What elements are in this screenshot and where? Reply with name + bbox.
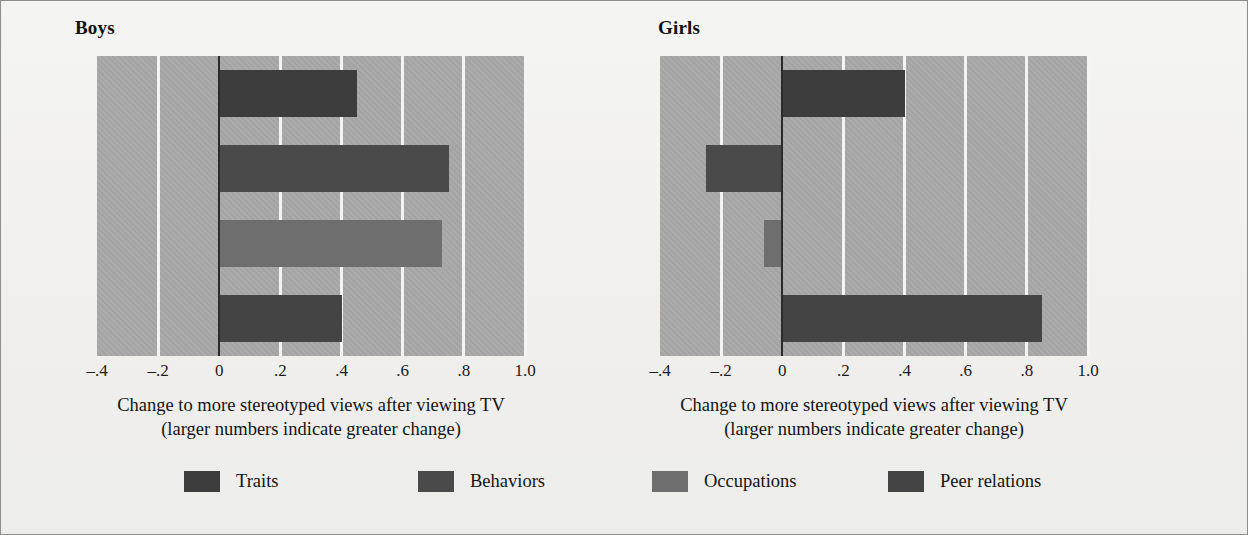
legend-label: Occupations — [704, 471, 796, 492]
x-axis-caption-girls-line1: Change to more stereotyped views after v… — [680, 395, 1068, 415]
legend-swatch-icon — [184, 471, 220, 492]
x-tick-label: –.2 — [711, 361, 732, 381]
x-axis-caption-boys-line1: Change to more stereotyped views after v… — [117, 395, 505, 415]
x-tick-label: 1.0 — [1077, 361, 1098, 381]
panel-boys: Boys –.4–.20.2.4.6.81.0 Change to more s… — [1, 1, 624, 456]
plot-area-boys — [97, 56, 525, 356]
bar-behaviors — [706, 145, 782, 192]
x-tick-label: .6 — [959, 361, 972, 381]
x-tick-label: .4 — [335, 361, 348, 381]
legend-label: Behaviors — [470, 471, 545, 492]
bar-traits — [782, 70, 904, 117]
x-tick-label: –.2 — [148, 361, 169, 381]
x-tick-label: .8 — [1020, 361, 1033, 381]
gridline — [157, 56, 160, 356]
x-axis-caption-girls-line2: (larger numbers indicate greater change) — [624, 417, 1124, 441]
gridline — [524, 56, 527, 356]
x-tick-label: .2 — [837, 361, 850, 381]
legend-item-behaviors: Behaviors — [394, 471, 628, 492]
x-tick-label: –.4 — [649, 361, 670, 381]
bar-occupations — [764, 220, 782, 267]
x-axis-ticks-boys: –.4–.20.2.4.6.81.0 — [97, 361, 525, 387]
legend-item-peer-relations: Peer relations — [862, 471, 1098, 492]
x-tick-label: .4 — [898, 361, 911, 381]
legend-swatch-icon — [652, 471, 688, 492]
panel-title-boys: Boys — [75, 17, 115, 39]
chart-figure: Boys –.4–.20.2.4.6.81.0 Change to more s… — [0, 0, 1248, 535]
x-axis-caption-boys: Change to more stereotyped views after v… — [61, 393, 561, 441]
x-tick-label: .6 — [396, 361, 409, 381]
legend-swatch-icon — [888, 471, 924, 492]
legend-item-occupations: Occupations — [628, 471, 862, 492]
legend-swatch-icon — [418, 471, 454, 492]
x-axis-caption-girls: Change to more stereotyped views after v… — [624, 393, 1124, 441]
x-axis-caption-boys-line2: (larger numbers indicate greater change) — [61, 417, 561, 441]
x-tick-label: –.4 — [86, 361, 107, 381]
bar-occupations — [219, 220, 442, 267]
x-tick-label: 1.0 — [514, 361, 535, 381]
panel-girls: Girls –.4–.20.2.4.6.81.0 Change to more … — [624, 1, 1247, 456]
panel-title-girls: Girls — [658, 17, 700, 39]
bar-peer-relations — [219, 295, 341, 342]
legend-label: Traits — [236, 471, 279, 492]
legend-label: Peer relations — [940, 471, 1041, 492]
x-tick-label: .2 — [274, 361, 287, 381]
x-axis-ticks-girls: –.4–.20.2.4.6.81.0 — [660, 361, 1088, 387]
x-tick-label: 0 — [778, 361, 787, 381]
zero-axis-line — [218, 56, 220, 356]
bar-behaviors — [219, 145, 448, 192]
gridline — [462, 56, 465, 356]
x-tick-label: .8 — [457, 361, 470, 381]
zero-axis-line — [781, 56, 783, 356]
bar-traits — [219, 70, 357, 117]
legend-item-traits: Traits — [150, 471, 394, 492]
gridline — [720, 56, 723, 356]
panels-container: Boys –.4–.20.2.4.6.81.0 Change to more s… — [1, 1, 1247, 456]
gridline — [1087, 56, 1090, 356]
bar-peer-relations — [782, 295, 1042, 342]
plot-area-girls — [660, 56, 1088, 356]
chart-legend: TraitsBehaviorsOccupationsPeer relations — [1, 471, 1247, 492]
x-tick-label: 0 — [215, 361, 224, 381]
gridline — [401, 56, 404, 356]
